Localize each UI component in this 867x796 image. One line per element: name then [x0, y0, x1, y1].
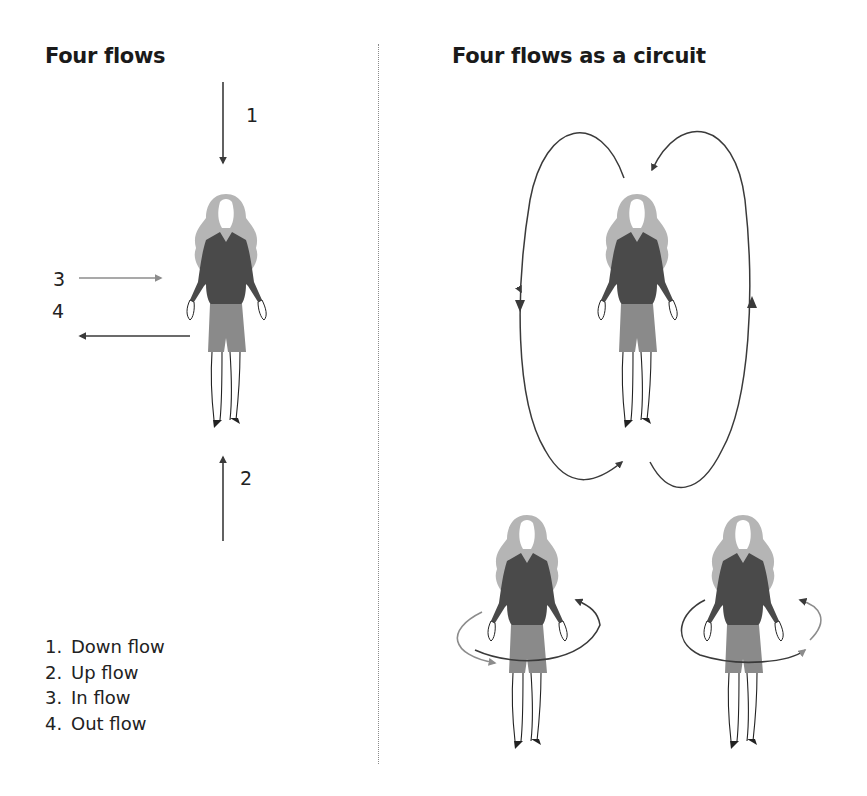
- figure-icon: [704, 515, 783, 749]
- figure-icon: [598, 194, 677, 428]
- figure-icon: [187, 194, 266, 428]
- figure-icon: [488, 515, 567, 749]
- diagram-artwork: [0, 0, 867, 796]
